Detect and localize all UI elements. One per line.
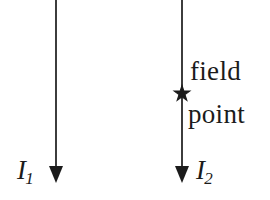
- field-point-label-line-1: field: [190, 58, 241, 85]
- current-subscript-i2: 2: [204, 169, 213, 188]
- field-point-label-line-2: point: [188, 101, 245, 128]
- current-label-i2: I2: [196, 157, 213, 187]
- physics-figure-two-wires: I1 I2 field point: [0, 0, 270, 200]
- current-label-i1: I1: [17, 157, 34, 187]
- current-subscript-i1: 1: [25, 169, 34, 188]
